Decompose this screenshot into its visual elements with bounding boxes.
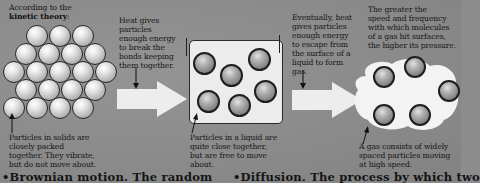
caption-line: but do not move about. bbox=[9, 160, 96, 169]
pointer-arrow-icon bbox=[133, 68, 139, 90]
annotation-line: to break the bbox=[119, 43, 175, 52]
particle bbox=[409, 104, 431, 126]
caption-line: Particles in solids are bbox=[9, 133, 96, 142]
gas-caption: A gas consists of widely spaced particle… bbox=[359, 142, 450, 169]
caption-line: at high speed. bbox=[359, 160, 450, 169]
bracket-line bbox=[278, 35, 281, 53]
annotation-line: enough energy bbox=[292, 31, 352, 40]
annotation-line: the higher its pressure. bbox=[368, 41, 456, 50]
particle bbox=[438, 80, 460, 102]
particle bbox=[404, 56, 426, 78]
bracket-line bbox=[185, 38, 188, 56]
intro-colon: : bbox=[67, 12, 69, 21]
caption-line: spaced particles moving bbox=[359, 151, 450, 160]
particle bbox=[26, 97, 48, 119]
annotation-line: gives particles bbox=[292, 22, 352, 31]
annotation-line: them together. bbox=[119, 61, 175, 70]
liquid-caption: Particles in a liquid are quite close to… bbox=[190, 133, 277, 169]
annotation-line: the surface of a bbox=[292, 49, 352, 58]
particle bbox=[72, 97, 94, 119]
heat-annotation-2: Eventually, heat gives particles enough … bbox=[292, 13, 352, 76]
annotation-line: of a gas hit surfaces, bbox=[368, 32, 456, 41]
caption-line: together. They vibrate, bbox=[9, 151, 96, 160]
annotation-line: particles bbox=[119, 25, 175, 34]
kinetic-theory-term: kinetic theory bbox=[9, 12, 67, 21]
particle bbox=[373, 104, 395, 126]
annotation-line: liquid to form bbox=[292, 58, 352, 67]
caption-line: closely packed bbox=[9, 142, 96, 151]
pointer-arrow-icon bbox=[361, 126, 369, 144]
annotation-line: speed and frequency bbox=[368, 14, 456, 23]
annotation-line: The greater the bbox=[368, 5, 456, 14]
particle bbox=[197, 90, 220, 113]
pointer-arrow-icon bbox=[9, 113, 15, 133]
right-arrow-icon bbox=[117, 81, 187, 117]
solid-caption: Particles in solids are closely packed t… bbox=[9, 133, 96, 169]
annotation-line: bonds keeping bbox=[119, 52, 175, 61]
caption-line: but are free to move bbox=[190, 151, 277, 160]
particle bbox=[248, 48, 271, 71]
annotation-line: Heat gives bbox=[119, 16, 175, 25]
pressure-annotation: The greater the speed and frequency with… bbox=[368, 5, 456, 50]
heat-annotation-1: Heat gives particles enough energy to br… bbox=[119, 16, 175, 70]
brownian-motion-heading: •Brownian motion. The random bbox=[2, 171, 212, 183]
annotation-line: to escape from bbox=[292, 40, 352, 49]
caption-line: Particles in a liquid are bbox=[190, 133, 277, 142]
diffusion-heading: •Diffusion. The process by which two bbox=[233, 171, 480, 183]
annotation-line: Eventually, heat bbox=[292, 13, 352, 22]
annotation-line: enough energy bbox=[119, 34, 175, 43]
particle bbox=[220, 64, 243, 87]
particle bbox=[228, 94, 251, 117]
pointer-arrow-icon bbox=[190, 113, 198, 133]
particle bbox=[254, 80, 277, 103]
particle bbox=[193, 52, 216, 75]
caption-line: A gas consists of widely bbox=[359, 142, 450, 151]
caption-line: quite close together, bbox=[190, 142, 277, 151]
caption-line: about. bbox=[190, 160, 277, 169]
particle bbox=[49, 97, 71, 119]
pointer-arrow-icon bbox=[300, 70, 306, 90]
intro-line-1: According to the bbox=[9, 3, 72, 12]
intro-text: According to the kinetic theory: bbox=[9, 3, 72, 21]
particle bbox=[373, 66, 395, 88]
annotation-line: with which molecules bbox=[368, 23, 456, 32]
